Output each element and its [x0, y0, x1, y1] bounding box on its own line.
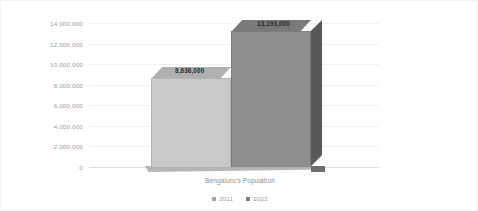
- data-label-2011: 8,636,000: [175, 67, 204, 74]
- bar-base-shadow-right: [311, 166, 325, 172]
- x-axis-title: Bengaluru's Population: [1, 177, 478, 184]
- y-tick-label: 2,000,000: [54, 143, 83, 150]
- bar-2011-front-face: [151, 78, 231, 167]
- legend-label: 2022: [253, 195, 268, 202]
- legend-item-2011[interactable]: 2011: [212, 195, 233, 202]
- y-tick-label: 0: [79, 164, 83, 171]
- y-tick-label: 8,000,000: [54, 81, 83, 88]
- y-tick-label: 12,000,000: [50, 40, 83, 47]
- y-tick-label: 6,000,000: [54, 102, 83, 109]
- legend-swatch-icon: [246, 197, 250, 201]
- legend-label: 2011: [219, 195, 233, 202]
- bar-2022-front-face: [231, 31, 311, 167]
- y-tick-label: 10,000,000: [50, 61, 83, 68]
- legend-swatch-icon: [212, 197, 216, 201]
- chart-frame: 14,000,000 12,000,000 10,000,000 8,000,0…: [0, 0, 478, 211]
- y-axis-tick-labels: 14,000,000 12,000,000 10,000,000 8,000,0…: [5, 23, 83, 167]
- legend: 2011 2022: [1, 195, 478, 202]
- bar-2022-side-face: [310, 20, 322, 167]
- data-label-2022: 13,193,000: [257, 20, 290, 27]
- gridline: [89, 23, 379, 24]
- y-tick-label: 14,000,000: [50, 20, 83, 27]
- legend-item-2022[interactable]: 2022: [246, 195, 268, 202]
- bar-2022[interactable]: [231, 31, 311, 167]
- y-tick-label: 4,000,000: [54, 122, 83, 129]
- plot-area: 8,636,000 13,193,000: [89, 23, 379, 167]
- bar-2011[interactable]: [151, 78, 231, 167]
